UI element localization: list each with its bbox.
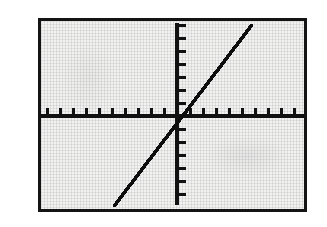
y-axis-tick [179,141,186,144]
x-axis-tick [202,108,205,115]
y-axis-tick [179,37,186,40]
y-axis-tick [179,128,186,131]
x-axis-tick [98,108,101,115]
x-axis-tick [59,108,62,115]
calculator-screen-frame [38,18,307,212]
x-axis-tick [124,108,127,115]
y-axis-tick [179,24,186,27]
trace-pixel [250,24,253,27]
x-axis-tick [293,108,296,115]
x-axis-tick [228,108,231,115]
y-axis-tick [179,76,186,79]
x-axis-tick [163,108,166,115]
x-axis-tick [215,108,218,115]
y-axis-tick [179,167,186,170]
x-axis [41,114,304,118]
graph-plot-area[interactable] [41,21,304,209]
x-axis-tick [280,108,283,115]
x-axis-tick [137,108,140,115]
y-axis-tick [179,102,186,105]
x-axis-tick [72,108,75,115]
x-axis-tick [267,108,270,115]
x-axis-tick [46,108,49,115]
y-axis-tick [179,50,186,53]
screenshot-root [0,0,327,227]
x-axis-tick [254,108,257,115]
y-axis-tick [179,193,186,196]
x-axis-tick [241,108,244,115]
y-axis-tick [179,180,186,183]
x-axis-tick [85,108,88,115]
y-axis-tick [179,154,186,157]
y-axis-tick [179,89,186,92]
x-axis-tick [111,108,114,115]
x-axis-tick [150,108,153,115]
y-axis-tick [179,63,186,66]
